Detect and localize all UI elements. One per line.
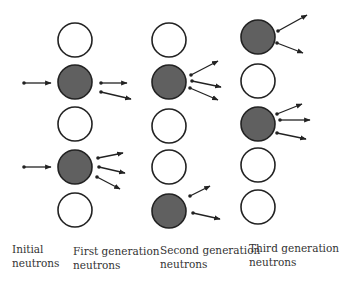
nucleus-icon <box>152 109 186 143</box>
neutron-dot-icon <box>99 81 103 85</box>
neutron-arrow-icon <box>277 133 306 139</box>
nuclei-layer <box>58 20 275 228</box>
neutron-dot-icon <box>99 90 103 94</box>
nucleus-icon <box>58 23 92 57</box>
nucleus-icon <box>58 107 92 141</box>
neutron-arrow-icon <box>191 61 218 75</box>
nucleus-icon <box>152 150 186 184</box>
neutron-dot-icon <box>95 175 99 179</box>
label-initial-neutrons: Initial neutrons <box>12 242 59 270</box>
fissioned-nucleus-icon <box>241 107 275 141</box>
fissioned-nucleus-icon <box>58 150 92 184</box>
label-second-generation: Second generation neutrons <box>160 243 260 271</box>
label-initial-line2: neutrons <box>12 256 59 270</box>
nucleus-icon <box>241 190 275 224</box>
label-third-generation: Third generation neutrons <box>249 241 339 269</box>
neutron-dot-icon <box>189 73 193 77</box>
neutron-dot-icon <box>275 112 279 116</box>
neutron-arrow-icon <box>101 92 131 99</box>
label-second-line2: neutrons <box>160 257 260 271</box>
neutron-arrow-icon <box>97 177 120 189</box>
fissioned-nucleus-icon <box>152 65 186 99</box>
label-initial-line1: Initial <box>12 242 59 256</box>
neutron-dot-icon <box>97 165 101 169</box>
neutron-arrow-icon <box>192 81 221 87</box>
label-first-line2: neutrons <box>73 258 159 272</box>
neutron-arrow-icon <box>98 153 123 158</box>
neutron-dot-icon <box>188 194 192 198</box>
neutron-arrow-icon <box>278 15 307 31</box>
fissioned-nucleus-icon <box>241 20 275 54</box>
label-first-generation: First generation neutrons <box>73 244 159 272</box>
neutron-dot-icon <box>191 211 195 215</box>
neutron-dot-icon <box>276 29 280 33</box>
nucleus-icon <box>241 64 275 98</box>
neutron-dot-icon <box>190 79 194 83</box>
label-third-line1: Third generation <box>249 241 339 255</box>
neutron-dot-icon <box>22 165 26 169</box>
neutron-arrow-icon <box>99 167 125 173</box>
neutron-arrow-icon <box>277 104 302 114</box>
neutron-arrow-icon <box>190 88 218 100</box>
neutron-dot-icon <box>96 156 100 160</box>
neutron-arrow-icon <box>277 43 303 53</box>
neutron-dot-icon <box>278 118 282 122</box>
neutron-arrow-icon <box>190 186 210 196</box>
neutron-arrow-icon <box>193 213 220 219</box>
nucleus-icon <box>152 23 186 57</box>
fissioned-nucleus-icon <box>152 194 186 228</box>
neutron-dot-icon <box>275 41 279 45</box>
nucleus-icon <box>241 148 275 182</box>
fissioned-nucleus-icon <box>58 65 92 99</box>
label-second-line1: Second generation <box>160 243 260 257</box>
label-third-line2: neutrons <box>249 255 339 269</box>
neutron-dot-icon <box>275 131 279 135</box>
label-first-line1: First generation <box>73 244 159 258</box>
neutron-dot-icon <box>188 86 192 90</box>
nucleus-icon <box>58 193 92 227</box>
neutron-dot-icon <box>22 81 26 85</box>
